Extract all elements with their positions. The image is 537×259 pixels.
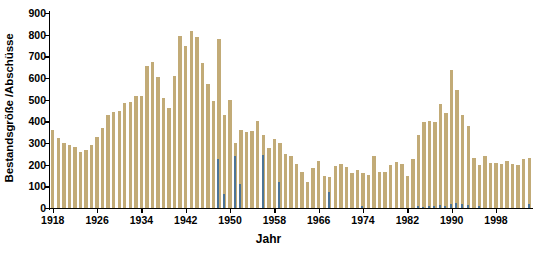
bar-primary <box>395 162 398 208</box>
bar-secondary <box>223 194 225 208</box>
y-axis-tick-label: 400 <box>16 116 46 127</box>
bar-primary <box>73 147 76 208</box>
bar-series-container <box>50 13 532 208</box>
x-axis-tick-label: 1958 <box>263 215 286 226</box>
bar-primary <box>339 164 342 208</box>
x-axis-line <box>46 208 533 209</box>
bar-primary <box>123 103 126 208</box>
bar-primary <box>256 121 259 208</box>
x-axis-tick-label: 1974 <box>351 215 374 226</box>
bar-primary <box>250 131 253 208</box>
bar-primary <box>101 128 104 208</box>
bar-primary <box>245 132 248 208</box>
bar-primary <box>206 84 209 208</box>
bar-primary <box>68 145 71 208</box>
x-axis-tick-mark <box>274 209 275 213</box>
y-axis-title-text: Bestandsgröße /Abschüsse <box>3 33 15 182</box>
bar-primary <box>51 130 54 208</box>
y-axis-tick-label: 100 <box>16 181 46 192</box>
bar-primary <box>411 159 414 208</box>
y-axis-tick-label: 500 <box>16 94 46 105</box>
bar-primary <box>494 163 497 209</box>
bar-primary <box>317 161 320 208</box>
bar-primary <box>112 112 115 208</box>
bar-secondary <box>417 206 419 208</box>
bar-primary <box>345 167 348 208</box>
bar-primary <box>212 101 215 208</box>
bar-secondary <box>461 204 463 208</box>
bar-secondary <box>239 184 241 208</box>
bar-primary <box>489 163 492 208</box>
bar-primary <box>156 77 159 208</box>
bar-primary <box>483 156 486 208</box>
bar-secondary <box>328 192 330 208</box>
x-axis-tick-mark <box>363 209 364 213</box>
bar-primary <box>173 76 176 208</box>
bar-primary <box>190 31 193 208</box>
bar-secondary <box>467 205 469 208</box>
bar-primary <box>467 126 470 208</box>
bar-primary <box>79 152 82 208</box>
x-axis-tick-label: 1942 <box>174 215 197 226</box>
bar-primary <box>129 102 132 208</box>
bar-primary <box>433 122 436 208</box>
bar-primary <box>478 165 481 208</box>
bar-primary <box>323 176 326 209</box>
bar-primary <box>516 165 519 208</box>
bar-primary <box>500 164 503 208</box>
bar-primary <box>95 137 98 209</box>
bar-secondary <box>455 203 457 208</box>
bar-primary <box>134 96 137 208</box>
bar-primary <box>167 108 170 208</box>
bar-primary <box>57 138 60 208</box>
y-axis-tick-label: 300 <box>16 138 46 149</box>
bar-primary <box>289 156 292 208</box>
bar-primary <box>162 98 165 208</box>
bar-secondary <box>422 207 424 208</box>
y-axis-tick-label: 700 <box>16 51 46 62</box>
bar-primary <box>350 173 353 208</box>
bar-primary <box>84 150 87 208</box>
x-axis-tick-label: 1998 <box>484 215 507 226</box>
bar-primary <box>455 90 458 208</box>
bar-secondary <box>262 155 264 208</box>
x-axis-tick-mark <box>319 209 320 213</box>
bar-primary <box>511 164 514 208</box>
bar-secondary <box>433 206 435 208</box>
bar-secondary <box>428 206 430 208</box>
bar-primary <box>201 63 204 208</box>
bar-primary <box>389 165 392 208</box>
bar-primary <box>184 46 187 208</box>
bar-primary <box>444 113 447 208</box>
bar-primary <box>417 135 420 208</box>
bar-secondary <box>444 206 446 208</box>
bar-primary <box>461 115 464 208</box>
bar-primary <box>273 139 276 208</box>
bar-primary <box>372 156 375 208</box>
bar-primary <box>528 158 531 208</box>
y-axis-tick-label: 800 <box>16 29 46 40</box>
bar-primary <box>195 37 198 208</box>
bar-primary <box>90 145 93 208</box>
y-axis-tick-label: 0 <box>16 203 46 214</box>
bar-primary <box>306 182 309 208</box>
bar-primary <box>422 122 425 208</box>
x-axis-tick-mark <box>496 209 497 213</box>
y-axis-tick-label: 900 <box>16 8 46 19</box>
x-axis-tick-mark <box>407 209 408 213</box>
bar-primary <box>284 154 287 208</box>
x-axis-tick-mark <box>141 209 142 213</box>
bar-primary <box>400 164 403 208</box>
bar-primary <box>472 158 475 208</box>
x-axis-tick-label: 1950 <box>218 215 241 226</box>
bar-primary <box>378 172 381 208</box>
bar-secondary <box>528 204 530 208</box>
bar-secondary <box>278 182 280 208</box>
bar-primary <box>267 148 270 208</box>
x-axis-tick-label: 1934 <box>130 215 153 226</box>
bar-group[interactable] <box>526 13 532 208</box>
bar-primary <box>118 111 121 208</box>
x-axis-title: Jahr <box>0 232 537 246</box>
bar-primary <box>295 164 298 208</box>
x-axis-tick-mark <box>230 209 231 213</box>
